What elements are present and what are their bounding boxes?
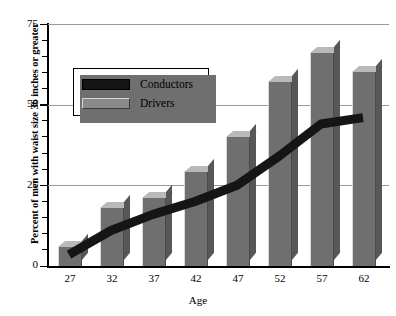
y-axis-title: Percent of men with waist size 36 inches… — [29, 14, 40, 254]
x-axis-title: Age — [0, 294, 396, 306]
chart-legend: Conductors Drivers — [73, 68, 209, 116]
bar-age-52 — [268, 82, 292, 266]
y-tick-45 — [42, 120, 48, 121]
y-tick-55 — [42, 88, 48, 89]
bar-side-face — [250, 124, 256, 260]
x-axis-line — [47, 266, 390, 268]
bar-age-62 — [352, 72, 376, 266]
x-tick-label-42: 42 — [176, 272, 216, 284]
bar-side-face — [82, 233, 88, 260]
plot-area — [48, 24, 389, 266]
bar-side-face — [292, 69, 298, 260]
bar-front-face — [352, 72, 376, 266]
bar-front-face — [310, 53, 334, 266]
bar-side-face — [166, 185, 172, 260]
bar-age-32 — [100, 208, 124, 266]
y-tick-15 — [42, 217, 48, 218]
bar-front-face — [184, 172, 208, 266]
y-tick-label-25: 25 — [8, 179, 38, 190]
y-tick-30 — [42, 169, 48, 170]
bar-age-37 — [142, 198, 166, 266]
x-tick-label-27: 27 — [50, 272, 90, 284]
y-tick-65 — [42, 56, 48, 57]
y-tick-label-75: 75 — [8, 18, 38, 29]
y-tick-5 — [42, 249, 48, 250]
bar-age-27 — [58, 247, 82, 266]
legend-item-conductors: Conductors — [82, 77, 193, 91]
legend-label-drivers: Drivers — [140, 97, 175, 109]
bar-side-face — [376, 59, 382, 260]
bar-front-face — [268, 82, 292, 266]
x-tick-label-62: 62 — [344, 272, 384, 284]
x-tick-label-57: 57 — [302, 272, 342, 284]
y-tick-label-50: 50 — [8, 98, 38, 109]
bar-front-face — [226, 137, 250, 266]
y-tick-35 — [42, 153, 48, 154]
y-tick-0 — [40, 266, 48, 268]
y-tick-40 — [42, 136, 48, 137]
y-tick-70 — [42, 40, 48, 41]
y-tick-75 — [40, 24, 48, 26]
x-tick-label-32: 32 — [92, 272, 132, 284]
bar-age-47 — [226, 137, 250, 266]
y-tick-25 — [40, 185, 48, 187]
y-tick-60 — [42, 72, 48, 73]
y-tick-10 — [42, 233, 48, 234]
legend-label-conductors: Conductors — [140, 78, 193, 90]
y-tick-50 — [40, 104, 48, 106]
gridline-75 — [48, 24, 389, 25]
bar-age-42 — [184, 172, 208, 266]
x-tick-label-47: 47 — [218, 272, 258, 284]
y-tick-20 — [42, 201, 48, 202]
bar-front-face — [142, 198, 166, 266]
bar-side-face — [208, 159, 214, 260]
bar-side-face — [334, 40, 340, 260]
bar-age-57 — [310, 53, 334, 266]
x-tick-label-52: 52 — [260, 272, 300, 284]
bar-front-face — [58, 247, 82, 266]
y-tick-label-0: 0 — [8, 259, 38, 270]
conductors-swatch-icon — [82, 79, 130, 90]
chart-container: Percent of men with waist size 36 inches… — [0, 0, 396, 316]
x-tick-label-37: 37 — [134, 272, 174, 284]
legend-item-drivers: Drivers — [82, 96, 175, 110]
bar-front-face — [100, 208, 124, 266]
drivers-swatch-icon — [82, 98, 130, 109]
bar-side-face — [124, 195, 130, 260]
